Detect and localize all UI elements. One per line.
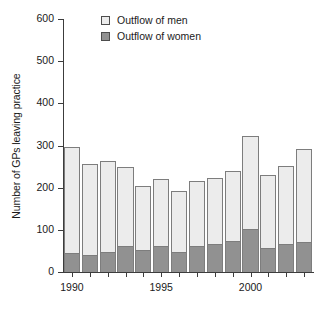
x-tick-label: 1990 [60, 281, 83, 293]
legend-swatch-women [101, 32, 110, 41]
x-tick [304, 272, 305, 277]
y-tick-label: 500 [14, 55, 54, 66]
bar-women-1998[interactable] [207, 244, 223, 272]
legend-label-men: Outflow of men [117, 15, 188, 26]
bar-women-2000[interactable] [242, 229, 258, 272]
bar-women-1993[interactable] [117, 246, 133, 272]
x-tick [197, 272, 198, 277]
x-tick [268, 272, 269, 277]
x-tick [108, 272, 109, 277]
x-tick [126, 272, 127, 277]
bar-women-2002[interactable] [278, 244, 294, 272]
x-tick-label: 2000 [239, 281, 262, 293]
x-tick [161, 272, 162, 277]
bar-women-2003[interactable] [296, 242, 312, 272]
y-tick-label: 100 [14, 224, 54, 235]
legend-item-men[interactable]: Outflow of men [101, 14, 201, 26]
y-tick-label: 0 [14, 266, 54, 277]
plot-area [63, 19, 313, 272]
x-axis-line [63, 272, 314, 273]
x-tick [179, 272, 180, 277]
chart-legend: Outflow of men Outflow of women [101, 14, 201, 46]
bar-women-1999[interactable] [225, 241, 241, 272]
x-tick [286, 272, 287, 277]
bar-women-1994[interactable] [135, 250, 151, 272]
bar-women-1991[interactable] [82, 255, 98, 272]
x-tick [215, 272, 216, 277]
bar-women-1990[interactable] [64, 253, 80, 272]
bar-women-1996[interactable] [171, 252, 187, 272]
x-tick-label: 1995 [150, 281, 173, 293]
legend-label-women: Outflow of women [117, 31, 201, 42]
y-tick-label: 200 [14, 182, 54, 193]
y-tick-label: 600 [14, 13, 54, 24]
legend-swatch-men [101, 16, 110, 25]
legend-item-women[interactable]: Outflow of women [101, 30, 201, 42]
x-tick [72, 272, 73, 277]
y-tick [58, 272, 63, 273]
y-tick-label: 300 [14, 140, 54, 151]
bar-women-1992[interactable] [100, 252, 116, 272]
x-tick [143, 272, 144, 277]
x-tick [90, 272, 91, 277]
bar-women-1995[interactable] [153, 246, 169, 272]
bar-women-1997[interactable] [189, 246, 205, 272]
bar-women-2001[interactable] [260, 248, 276, 272]
chart-container: Number of GPs leaving practice 010020030… [0, 0, 321, 312]
y-tick-label: 400 [14, 97, 54, 108]
x-tick [233, 272, 234, 277]
x-tick [251, 272, 252, 277]
